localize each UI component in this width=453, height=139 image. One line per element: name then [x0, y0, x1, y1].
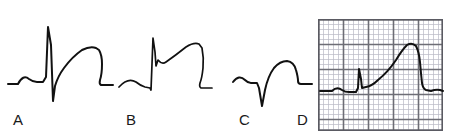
ecg-trace-a [8, 27, 113, 101]
panel-label-d: D [297, 112, 308, 127]
panel-label-a: A [13, 112, 23, 127]
ecg-trace-b [119, 38, 212, 90]
panel-label-b: B [126, 112, 136, 127]
ecg-figure: A B C D [0, 0, 453, 139]
panel-label-c: C [239, 112, 250, 127]
ecg-trace-c [233, 61, 312, 106]
ecg-trace-d [320, 44, 443, 92]
ecg-traces [0, 0, 453, 139]
